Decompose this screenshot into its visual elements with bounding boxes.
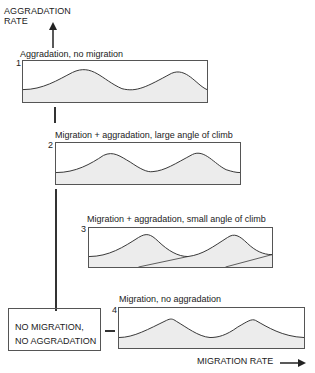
connector-line	[55, 189, 57, 311]
ripple-profile-4	[119, 308, 304, 348]
panel-4-number: 4	[112, 305, 117, 315]
x-axis-label: MIGRATION RATE	[197, 356, 273, 366]
ripple-profile-2	[56, 143, 240, 184]
connector-line	[54, 107, 56, 123]
origin-box-line2: NO AGGRADATION	[15, 334, 100, 348]
panel-1-bedform-profile	[22, 60, 208, 103]
origin-box: NO MIGRATION, NO AGGRADATION	[8, 308, 101, 351]
panel-3-bedform-profile	[88, 227, 273, 268]
panel-2-caption: Migration + aggradation, large angle of …	[55, 130, 233, 140]
panel-2-number: 2	[48, 140, 53, 150]
y-axis-label: AGGRADATION RATE	[4, 6, 71, 26]
ripple-profile-1	[23, 61, 207, 102]
y-axis-label-line2: RATE	[4, 16, 71, 26]
origin-box-line1: NO MIGRATION,	[15, 320, 100, 334]
panel-1-number: 1	[16, 58, 21, 68]
panel-4-bedform-profile	[118, 307, 305, 349]
panel-2-bedform-profile	[55, 142, 241, 185]
arrow-up-icon	[48, 22, 58, 48]
ripple-profile-3	[89, 228, 272, 267]
panel-1-caption: Aggradation, no migration	[20, 49, 123, 59]
y-axis-label-line1: AGGRADATION	[4, 6, 71, 16]
arrow-right-icon	[280, 358, 306, 368]
panel-4-caption: Migration, no aggradation	[119, 294, 221, 304]
connector-line	[105, 330, 115, 332]
panel-3-number: 3	[81, 224, 86, 234]
panel-3-caption: Migration + aggradation, small angle of …	[87, 214, 266, 224]
